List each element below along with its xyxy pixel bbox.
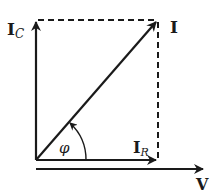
- phasor-diagram: IC I IR V φ: [0, 0, 219, 193]
- v-label: V: [195, 175, 209, 193]
- phi-label: φ: [59, 139, 70, 157]
- ir-label: IR: [133, 138, 149, 159]
- phi-angle-arc: [70, 123, 86, 160]
- i-label: I: [170, 17, 178, 37]
- ic-label: IC: [7, 19, 24, 41]
